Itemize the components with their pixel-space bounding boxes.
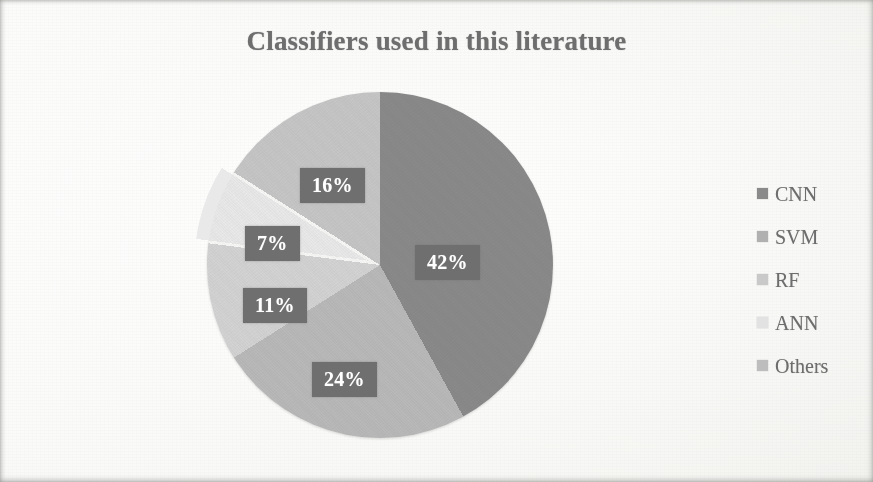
- chart-title: Classifiers used in this literature: [0, 26, 873, 57]
- legend-item-rf[interactable]: RF: [757, 258, 869, 301]
- legend-swatch-icon-rf: [757, 274, 768, 285]
- slice-label-ann: 7%: [245, 226, 300, 261]
- slice-label-others: 16%: [300, 168, 365, 203]
- legend-swatch-icon-others: [757, 360, 768, 371]
- legend-label-svm: SVM: [775, 227, 818, 247]
- legend-swatch-icon-svm: [757, 231, 768, 242]
- legend-swatch-icon-ann: [757, 317, 768, 328]
- slice-label-cnn: 42%: [415, 245, 480, 280]
- legend-label-cnn: CNN: [775, 184, 817, 204]
- legend-item-svm[interactable]: SVM: [757, 215, 869, 258]
- legend-item-ann[interactable]: ANN: [757, 301, 869, 344]
- legend-item-cnn[interactable]: CNN: [757, 172, 869, 215]
- legend-label-others: Others: [775, 356, 828, 376]
- slice-label-svm: 24%: [312, 362, 377, 397]
- legend-label-ann: ANN: [775, 313, 818, 333]
- legend-label-rf: RF: [775, 270, 799, 290]
- figure-canvas: Classifiers used in this literature 42% …: [0, 0, 873, 482]
- pie-chart: [207, 92, 553, 438]
- legend-item-others[interactable]: Others: [757, 344, 869, 387]
- legend-swatch-icon-cnn: [757, 188, 768, 199]
- slice-label-rf: 11%: [243, 288, 307, 323]
- legend: CNN SVM RF ANN Others: [757, 172, 869, 387]
